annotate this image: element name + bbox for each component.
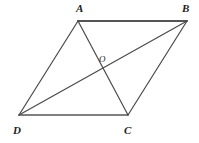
side-DA bbox=[19, 21, 78, 115]
parallelogram-diagram bbox=[0, 0, 199, 143]
vertex-label-a: A bbox=[76, 3, 83, 14]
diagonal-BD bbox=[19, 21, 187, 115]
geometry-figure: A B C D O bbox=[0, 0, 199, 143]
side-BC bbox=[128, 21, 187, 115]
vertex-label-o: O bbox=[99, 55, 106, 64]
vertex-label-d: D bbox=[13, 125, 21, 136]
vertex-label-b: B bbox=[182, 3, 189, 14]
vertex-label-c: C bbox=[124, 125, 131, 136]
